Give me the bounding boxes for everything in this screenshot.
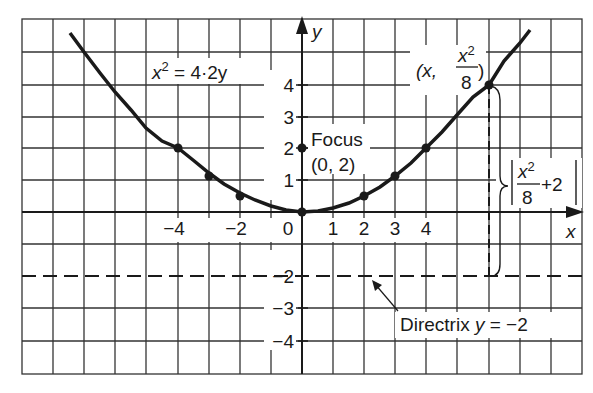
focus-point <box>298 144 307 153</box>
svg-text:−4: −4 <box>163 218 185 239</box>
svg-text:4: 4 <box>421 218 432 239</box>
svg-text:0: 0 <box>283 218 294 239</box>
pointer-arrowhead-icon <box>372 280 382 291</box>
directrix-label: Directrix y = −2 <box>400 314 528 335</box>
svg-text:8: 8 <box>522 187 533 208</box>
svg-text:−2: −2 <box>272 266 294 287</box>
svg-text:4: 4 <box>283 75 294 96</box>
parabola-diagram: x2 = 4·2y y x −4 −2 0 1 2 3 4 4 3 2 1 −2… <box>0 0 593 393</box>
svg-text:1: 1 <box>283 170 294 191</box>
svg-text:1: 1 <box>328 218 339 239</box>
focus-coords: (0, 2) <box>311 154 355 175</box>
svg-text:+2: +2 <box>541 174 563 195</box>
svg-text:8: 8 <box>461 72 472 93</box>
svg-text:2: 2 <box>283 138 294 159</box>
y-axis-label: y <box>310 21 323 42</box>
svg-text:3: 3 <box>283 107 294 128</box>
svg-text:−2: −2 <box>225 218 247 239</box>
svg-text:3: 3 <box>390 218 401 239</box>
svg-text:): ) <box>478 60 484 81</box>
svg-text:2: 2 <box>359 218 370 239</box>
svg-text:(x,: (x, <box>416 60 437 81</box>
x-axis-label: x <box>565 221 577 242</box>
focus-label: Focus <box>311 129 363 150</box>
svg-text:−3: −3 <box>272 298 294 319</box>
svg-text:−4: −4 <box>272 331 294 352</box>
